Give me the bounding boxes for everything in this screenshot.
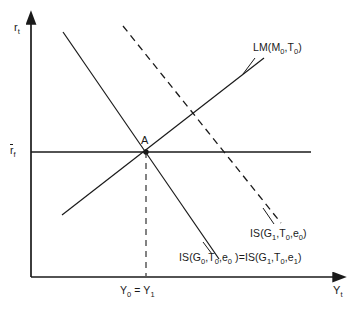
is0a-arg3-subscript: 0 <box>228 257 232 266</box>
is0b-arg3-subscript: 1 <box>294 257 298 266</box>
lm-args-open: (M <box>268 41 280 53</box>
is-curve-dashed <box>123 26 281 223</box>
lm-arg1-subscript: 0 <box>280 47 284 56</box>
x-tick-y1-subscript: 1 <box>150 290 154 299</box>
y-axis-label-subscript: t <box>18 27 20 36</box>
lm-separator: ,T <box>284 41 294 53</box>
lm-curve-label: LM(M0,T0) <box>253 42 302 53</box>
x-axis-label-subscript: t <box>340 290 342 299</box>
x-axis-label: Yt <box>333 285 343 297</box>
is1-args-close: ) <box>303 227 307 239</box>
equilibrium-point-marker <box>143 149 148 154</box>
is0a-separator-1: ,T <box>205 251 215 263</box>
x-tick-label-y0y1: Y0 = Y1 <box>120 285 155 296</box>
is0b-separator-2: ,e <box>285 251 294 263</box>
is0a-args-open: (G <box>189 251 201 263</box>
is-dashed-leader-line <box>263 208 274 224</box>
is0a-arg1-subscript: 0 <box>201 257 205 266</box>
y-tick-rf-subscript: f <box>14 150 16 159</box>
is0b-name: IS <box>245 251 255 263</box>
is1-args-open: (G <box>260 227 272 239</box>
x-tick-equals: = <box>131 284 143 296</box>
is1-name: IS <box>250 227 260 239</box>
is1-separator-1: ,T <box>276 227 286 239</box>
is-lm-diagram: rt rf Yt Y0 = Y1 A LM(M0,T0) IS(G1,T0,e0… <box>0 0 361 317</box>
equilibrium-point-label: A <box>141 135 148 147</box>
is0a-args-close: ) <box>232 251 239 263</box>
is0a-arg2-subscript: 0 <box>215 257 219 266</box>
plot-canvas <box>0 0 361 317</box>
is1-arg2-subscript: 0 <box>286 233 290 242</box>
is1-arg3-subscript: 0 <box>299 233 303 242</box>
is0a-name: IS <box>179 251 189 263</box>
is-solid-curve-label: IS(G0,T0,e0 )=IS(G1,T0,e1) <box>179 252 302 263</box>
is0b-arg1-subscript: 1 <box>267 257 271 266</box>
y-axis-label: rt <box>14 22 20 34</box>
is1-separator-2: ,e <box>290 227 299 239</box>
lm-arg2-subscript: 0 <box>294 47 298 56</box>
is-dashed-curve-label: IS(G1,T0,e0) <box>250 228 307 239</box>
is0b-separator-1: ,T <box>271 251 281 263</box>
is1-arg1-subscript: 1 <box>272 233 276 242</box>
lm-curve <box>62 58 264 215</box>
lm-name: LM <box>253 41 268 53</box>
is0b-args-close: ) <box>298 251 302 263</box>
y-tick-label-rf: rf <box>10 145 16 156</box>
is0b-arg2-subscript: 0 <box>281 257 285 266</box>
x-tick-y0-subscript: 0 <box>127 290 131 299</box>
is0a-separator-2: ,e <box>219 251 228 263</box>
lm-args-close: ) <box>298 41 302 53</box>
is0b-args-open: (G <box>255 251 267 263</box>
